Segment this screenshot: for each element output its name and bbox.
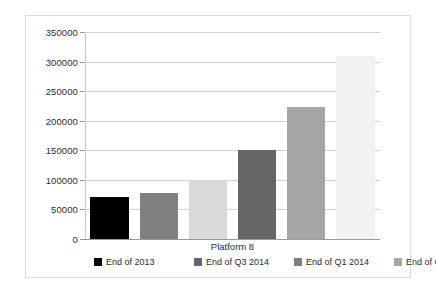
legend-label: End of Q4 2014 bbox=[406, 257, 436, 267]
y-axis-tick-label: 100000 bbox=[46, 174, 78, 185]
legend-item[interactable]: End of 2013 bbox=[94, 256, 194, 268]
tick-mark bbox=[80, 239, 85, 240]
y-axis-tick-label: 0 bbox=[73, 234, 78, 245]
y-axis-tick-label: 250000 bbox=[46, 86, 78, 97]
x-axis-category-label: Platform 8 bbox=[85, 241, 380, 252]
bar-end-of-q3-2014[interactable] bbox=[238, 150, 276, 239]
legend-label: End of Q1 2014 bbox=[306, 257, 369, 267]
legend-swatch-icon bbox=[194, 258, 202, 266]
bar-end-of-q4-2014[interactable] bbox=[287, 107, 325, 239]
plot-area: 3500003000002500002000001500001000005000… bbox=[85, 32, 380, 239]
bar-series-layer bbox=[85, 32, 380, 239]
bar-end-of-q1-2015[interactable] bbox=[336, 56, 374, 239]
legend-swatch-icon bbox=[94, 258, 102, 266]
chart-figure: 3500003000002500002000001500001000005000… bbox=[25, 15, 411, 278]
y-axis-tick-label: 350000 bbox=[46, 27, 78, 38]
y-axis-tick-label: 50000 bbox=[51, 204, 78, 215]
legend-swatch-icon bbox=[294, 258, 302, 266]
y-axis-tick-label: 150000 bbox=[46, 145, 78, 156]
x-axis-baseline bbox=[85, 239, 380, 240]
y-axis-tick-label: 200000 bbox=[46, 115, 78, 126]
bar-end-of-q2-2014[interactable] bbox=[189, 180, 227, 239]
legend-label: End of 2013 bbox=[106, 257, 155, 267]
y-axis-tick-label: 300000 bbox=[46, 56, 78, 67]
bar-end-of-2013[interactable] bbox=[90, 197, 128, 239]
legend-item[interactable]: End of Q4 2014 bbox=[394, 256, 436, 268]
legend-swatch-icon bbox=[394, 258, 402, 266]
chart-legend: End of 2013End of Q3 2014End of Q1 2014E… bbox=[94, 256, 394, 268]
legend-item[interactable]: End of Q3 2014 bbox=[194, 256, 294, 268]
legend-item[interactable]: End of Q1 2014 bbox=[294, 256, 394, 268]
legend-label: End of Q3 2014 bbox=[206, 257, 269, 267]
bar-end-of-q1-2014[interactable] bbox=[140, 193, 178, 239]
